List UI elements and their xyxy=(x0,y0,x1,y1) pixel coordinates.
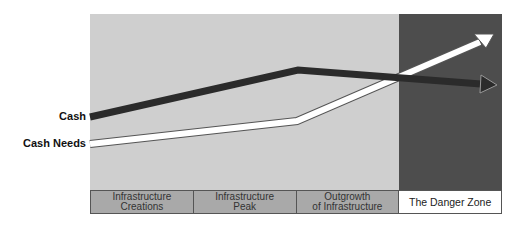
phase-infrastructure-creations: Infrastructure Creations xyxy=(91,191,194,213)
plot-area xyxy=(90,14,399,190)
cash-label: Cash xyxy=(0,110,86,122)
phase-danger-zone: The Danger Zone xyxy=(399,191,501,213)
phase-infrastructure-peak: Infrastructure Peak xyxy=(194,191,297,213)
phase-outgrowth: Outgrowth of Infrastructure xyxy=(297,191,400,213)
cash-needs-label: Cash Needs xyxy=(0,137,86,149)
phase-band: Infrastructure Creations Infrastructure … xyxy=(90,190,502,214)
